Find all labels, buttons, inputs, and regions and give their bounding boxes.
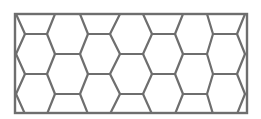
- hex-diagonal: [110, 74, 120, 94]
- honeycomb-diagram: [0, 0, 261, 119]
- hex-diagonal: [47, 34, 55, 54]
- hex-diagonal: [47, 54, 55, 74]
- hex-diagonal: [175, 74, 183, 94]
- hex-diagonal: [110, 14, 120, 34]
- hex-diagonal: [80, 54, 88, 74]
- hex-diagonal: [175, 34, 183, 54]
- hex-diagonal: [110, 94, 120, 114]
- hex-diagonal: [143, 34, 152, 54]
- hex-diagonal: [110, 54, 120, 74]
- hex-diagonal: [237, 94, 245, 114]
- hex-diagonal: [237, 14, 245, 34]
- hexagon-grid: [0, 0, 261, 114]
- hex-diagonal: [175, 54, 183, 74]
- hex-diagonal: [16, 34, 25, 54]
- hex-diagonal: [80, 14, 88, 34]
- hex-diagonal: [207, 74, 213, 94]
- hex-diagonal: [237, 74, 245, 94]
- hex-diagonal: [16, 14, 25, 34]
- hex-diagonal: [207, 14, 213, 34]
- hex-diagonal: [47, 14, 55, 34]
- hex-diagonal: [143, 94, 152, 114]
- hex-diagonal: [237, 54, 245, 74]
- hex-diagonal: [237, 34, 245, 54]
- hex-diagonal: [143, 54, 152, 74]
- hex-diagonal: [80, 94, 88, 114]
- hex-diagonal: [143, 74, 152, 94]
- hex-diagonal: [207, 94, 213, 114]
- hex-diagonal: [80, 34, 88, 54]
- hex-diagonal: [207, 54, 213, 74]
- hex-diagonal: [175, 14, 183, 34]
- hex-diagonal: [47, 94, 55, 114]
- hex-diagonal: [16, 74, 25, 94]
- hex-diagonal: [47, 74, 55, 94]
- hex-diagonal: [175, 94, 183, 114]
- hex-diagonal: [110, 34, 120, 54]
- hex-diagonal: [16, 94, 25, 114]
- hex-diagonal: [16, 54, 25, 74]
- hex-diagonal: [207, 34, 213, 54]
- hex-diagonal: [143, 14, 152, 34]
- hex-diagonal: [80, 74, 88, 94]
